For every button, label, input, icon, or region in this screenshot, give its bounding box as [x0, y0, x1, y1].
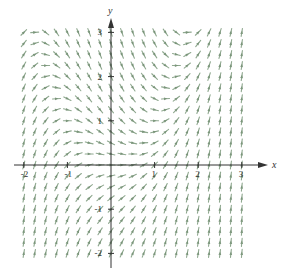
field-arrowhead-icon — [44, 42, 48, 45]
field-arrowhead-icon — [153, 252, 156, 256]
field-arrowhead-icon — [33, 31, 37, 34]
field-arrowhead-icon — [76, 241, 79, 245]
field-arrowhead-icon — [207, 42, 210, 46]
field-arrowhead-icon — [98, 175, 102, 178]
field-arrowhead-icon — [33, 54, 37, 57]
field-arrowhead-icon — [55, 240, 58, 244]
field-arrowhead-icon — [164, 240, 167, 244]
field-arrowhead-icon — [87, 241, 90, 245]
x-tick-label: -2 — [21, 169, 29, 179]
field-arrowhead-icon — [44, 87, 48, 90]
tick-labels: -2-1123-2-1123xy — [21, 5, 277, 258]
field-arrowhead-icon — [76, 119, 80, 122]
field-arrowhead-icon — [33, 108, 36, 112]
field-arrowhead-icon — [98, 141, 102, 144]
field-arrowhead-icon — [44, 64, 48, 67]
field-arrowhead-icon — [175, 185, 178, 189]
field-arrowhead-icon — [120, 31, 123, 35]
field-arrowhead-icon — [196, 75, 199, 79]
field-arrowhead-icon — [120, 141, 124, 144]
field-arrowhead-icon — [153, 142, 157, 145]
x-tick-label: 3 — [239, 169, 244, 179]
y-tick-label: 3 — [98, 27, 103, 37]
field-arrowhead-icon — [175, 218, 178, 222]
field-arrowhead-icon — [55, 120, 59, 123]
y-tick-label: -1 — [95, 204, 103, 214]
field-arrowhead-icon — [186, 185, 189, 189]
field-arrowhead-icon — [87, 64, 90, 68]
field-arrowhead-icon — [218, 42, 221, 46]
field-arrowhead-icon — [164, 75, 168, 78]
x-tick-label: -1 — [64, 169, 72, 179]
field-arrowhead-icon — [87, 31, 90, 35]
field-arrowhead-icon — [87, 230, 90, 234]
field-arrowhead-icon — [164, 229, 167, 233]
field-arrowhead-icon — [55, 251, 58, 255]
field-arrowhead-icon — [120, 64, 123, 68]
field-arrowhead-icon — [55, 229, 58, 233]
field-arrowhead-icon — [142, 53, 145, 57]
field-arrowhead-icon — [218, 53, 221, 57]
field-arrowhead-icon — [131, 130, 135, 133]
field-arrowhead-icon — [174, 141, 177, 145]
field-arrowhead-icon — [120, 53, 123, 57]
field-arrowhead-icon — [22, 97, 25, 101]
field-arrowhead-icon — [196, 86, 199, 90]
field-arrowhead-icon — [65, 41, 68, 45]
field-arrowhead-icon — [22, 75, 25, 79]
field-arrowhead-icon — [196, 119, 199, 123]
field-arrowhead-icon — [131, 42, 134, 46]
field-arrowhead-icon — [33, 174, 36, 178]
direction-field-segments — [21, 28, 243, 257]
field-arrowhead-icon — [66, 229, 69, 233]
field-arrowhead-icon — [164, 185, 167, 189]
field-arrowhead-icon — [131, 31, 134, 35]
field-arrowhead-icon — [120, 186, 124, 189]
field-arrowhead-icon — [44, 141, 47, 145]
field-arrowhead-icon — [44, 174, 47, 178]
field-arrowhead-icon — [185, 119, 188, 123]
field-arrowhead-icon — [44, 218, 47, 222]
y-tick-label: 2 — [98, 72, 103, 82]
field-arrowhead-icon — [77, 142, 81, 145]
field-arrowhead-icon — [186, 31, 190, 34]
field-arrowhead-icon — [131, 75, 134, 79]
field-arrowhead-icon — [131, 252, 134, 256]
field-arrowhead-icon — [33, 130, 36, 134]
field-arrowhead-icon — [196, 141, 199, 145]
field-arrowhead-icon — [66, 218, 69, 222]
field-arrowhead-icon — [22, 152, 25, 156]
field-arrowhead-icon — [175, 229, 178, 233]
y-tick-label: 1 — [98, 116, 103, 126]
field-arrowhead-icon — [120, 175, 124, 178]
field-arrowhead-icon — [76, 53, 79, 57]
field-arrowhead-icon — [98, 64, 101, 68]
x-axis-arrow-icon — [258, 162, 268, 168]
field-arrowhead-icon — [66, 240, 69, 244]
field-arrowhead-icon — [120, 86, 123, 90]
field-arrowhead-icon — [186, 174, 189, 178]
field-arrowhead-icon — [87, 175, 91, 178]
field-arrowhead-icon — [22, 141, 25, 145]
field-arrowhead-icon — [44, 152, 47, 156]
field-arrowhead-icon — [164, 97, 168, 100]
field-arrowhead-icon — [142, 153, 146, 156]
field-arrowhead-icon — [22, 119, 25, 123]
field-arrowhead-icon — [131, 175, 135, 178]
field-arrowhead-icon — [76, 153, 80, 156]
field-arrowhead-icon — [174, 152, 177, 156]
field-arrowhead-icon — [44, 229, 47, 233]
field-arrowhead-icon — [55, 75, 59, 78]
field-arrowhead-icon — [22, 130, 25, 134]
field-arrowhead-icon — [76, 229, 79, 233]
y-axis-label: y — [107, 5, 113, 16]
field-arrowhead-icon — [207, 31, 210, 35]
field-arrowhead-icon — [142, 30, 145, 34]
field-arrowhead-icon — [87, 75, 90, 79]
field-arrowhead-icon — [153, 97, 157, 100]
field-arrowhead-icon — [142, 252, 145, 256]
field-arrowhead-icon — [174, 87, 178, 90]
field-arrowhead-icon — [174, 42, 178, 45]
field-arrowhead-icon — [131, 241, 134, 245]
field-arrowhead-icon — [153, 41, 156, 45]
